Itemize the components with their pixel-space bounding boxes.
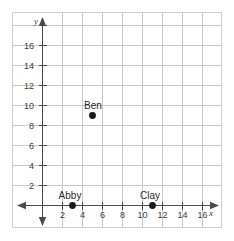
data-point-label-ben: Ben bbox=[84, 100, 102, 111]
x-tick-label: 4 bbox=[80, 210, 85, 220]
y-tick-label: 16 bbox=[24, 41, 34, 51]
y-tick-label: 14 bbox=[24, 61, 34, 71]
x-tick-label: 12 bbox=[157, 210, 167, 220]
x-axis-label: x bbox=[208, 208, 213, 218]
y-tick-label: 4 bbox=[29, 161, 34, 171]
y-tick-label: 12 bbox=[24, 81, 34, 91]
y-axis-label: y bbox=[33, 16, 38, 26]
data-point-label-abby: Abby bbox=[59, 190, 82, 201]
x-tick-label: 14 bbox=[177, 210, 187, 220]
figure-frame bbox=[13, 13, 222, 228]
data-point-label-clay: Clay bbox=[140, 190, 160, 201]
y-tick-label: 10 bbox=[24, 101, 34, 111]
y-tick-label: 8 bbox=[29, 121, 34, 131]
x-tick-label: 16 bbox=[197, 210, 207, 220]
x-tick-label: 8 bbox=[120, 210, 125, 220]
coordinate-plane-svg: 2 4 6 8 10 12 14 16 2 4 6 8 10 12 14 16 … bbox=[0, 0, 234, 241]
coordinate-plane-figure: 2 4 6 8 10 12 14 16 2 4 6 8 10 12 14 16 … bbox=[0, 0, 234, 241]
x-tick-label: 6 bbox=[100, 210, 105, 220]
y-tick-label: 2 bbox=[29, 181, 34, 191]
x-tick-label: 10 bbox=[137, 210, 147, 220]
y-tick-label: 6 bbox=[29, 141, 34, 151]
x-tick-label: 2 bbox=[60, 210, 65, 220]
